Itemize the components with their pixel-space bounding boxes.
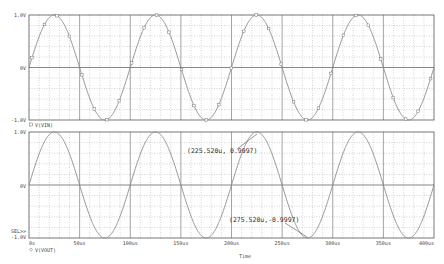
square-marker — [56, 14, 59, 17]
square-marker — [105, 118, 108, 121]
square-marker — [404, 118, 407, 121]
square-marker — [355, 14, 358, 17]
square-marker — [93, 108, 96, 111]
square-marker — [143, 26, 146, 29]
square-marker — [168, 31, 171, 34]
lower-plot-vout: 1.0V 0V SEL>> -1.0V (225.520u, 0.9997) (… — [11, 129, 434, 259]
x-tick-label: 50us — [74, 240, 86, 246]
square-marker — [267, 27, 270, 30]
square-marker — [392, 96, 395, 99]
lower-y-label-top: 1.0V — [14, 129, 26, 135]
x-axis-title: Time — [239, 253, 251, 259]
square-marker — [130, 62, 133, 65]
square-marker — [31, 56, 34, 59]
upper-y-label-mid: 0V — [20, 65, 26, 71]
x-tick-label: 0s — [29, 240, 35, 246]
square-marker — [180, 68, 183, 71]
square-marker — [118, 99, 121, 102]
waveform-plot: 1.0V 0V -1.0V V(VIN) 1.0V 0V SEL>> -1.0V… — [0, 0, 444, 264]
upper-plot-vin: 1.0V 0V -1.0V V(VIN) — [11, 12, 434, 128]
lower-y-label-mid: 0V — [20, 183, 26, 189]
square-marker — [367, 24, 370, 27]
upper-y-label-bottom: -1.0V — [11, 117, 26, 123]
square-marker — [68, 35, 71, 38]
x-axis-ticks: 0s50us100us150us200us250us300us350us400u… — [29, 240, 434, 246]
square-marker — [330, 72, 333, 75]
cursor1-annotation[interactable]: (225.520u, 0.9997) — [187, 147, 257, 155]
square-marker — [417, 110, 420, 113]
square-marker — [193, 104, 196, 107]
square-marker — [429, 77, 432, 80]
diamond-marker-icon — [29, 248, 32, 251]
square-marker — [230, 67, 233, 70]
square-marker — [218, 103, 221, 106]
upper-legend-label[interactable]: V(VIN) — [35, 122, 53, 128]
x-tick-label: 300us — [325, 240, 340, 246]
x-tick-label: 150us — [173, 240, 188, 246]
square-marker — [342, 34, 345, 37]
cursor2-annotation[interactable]: (275.520u,-0.9997) — [229, 216, 299, 224]
x-tick-label: 200us — [224, 240, 239, 246]
square-marker — [255, 14, 258, 17]
lower-y-label-bottom: -1.0V — [11, 234, 26, 240]
upper-y-label-top: 1.0V — [14, 12, 26, 18]
square-marker — [242, 30, 245, 33]
square-marker-icon — [30, 123, 33, 126]
square-marker — [305, 118, 308, 121]
square-marker — [292, 100, 295, 103]
square-marker — [317, 107, 320, 110]
lower-legend-label[interactable]: V(VOUT) — [35, 247, 56, 253]
x-tick-label: 350us — [376, 240, 391, 246]
square-marker — [81, 73, 84, 76]
square-marker — [280, 63, 283, 66]
square-marker — [379, 58, 382, 61]
x-tick-label: 250us — [275, 240, 290, 246]
square-marker — [43, 23, 46, 26]
x-tick-label: 400us — [419, 240, 434, 246]
square-marker — [155, 14, 158, 17]
x-tick-label: 100us — [123, 240, 138, 246]
square-marker — [205, 119, 208, 122]
